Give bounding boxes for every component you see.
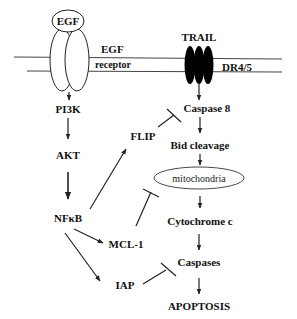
caspase8-label: Caspase 8 [184,102,231,114]
mcl1-label: MCL-1 [109,238,144,250]
arrow-nfkb-iap [65,233,100,281]
akt-label: AKT [56,149,81,161]
pi3k-label: PI3K [55,103,81,115]
arrow-nfkb-flip [90,149,126,209]
egf-receptor [50,29,89,91]
nfkb-label: NFκB [54,212,83,224]
flip-label: FLIP [130,130,155,142]
egf-label: EGF [57,15,80,27]
pathway-diagram: EGF EGF receptor TRAIL DR4/5 PI3K AKT NF… [0,0,297,319]
dr45-receptor [185,46,214,84]
inhibit-iap-caspases [143,263,176,284]
egf-ligand: EGF [52,10,84,32]
egf-receptor-label-2: receptor [95,59,131,70]
dr45-label: DR4/5 [222,61,252,73]
arrow-nfkb-mcl1 [74,229,103,243]
inhibit-mcl1-mito [136,189,159,226]
inhibit-flip-caspase8 [158,109,181,127]
egf-receptor-label-1: EGF [101,43,124,55]
apoptosis-label: APOPTOSIS [168,300,230,312]
mitochondria-node: mitochondria [154,167,244,189]
trail-label: TRAIL [182,31,217,43]
bid-label: Bid cleavage [171,139,230,151]
caspases-label: Caspases [178,256,222,268]
cytochrome-c-label: Cytochrome c [167,215,233,227]
mitochondria-label: mitochondria [172,173,226,184]
iap-label: IAP [116,279,135,291]
